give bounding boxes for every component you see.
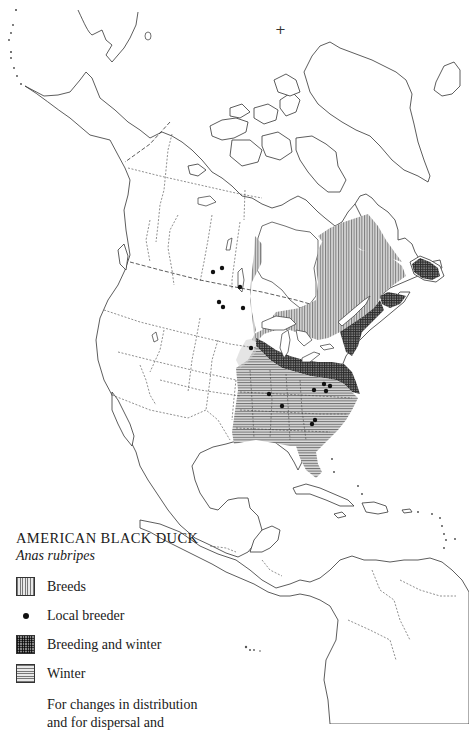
vancouver-island <box>118 244 128 270</box>
hispaniola <box>362 502 388 514</box>
local-breeder-dot <box>322 382 326 386</box>
local-breeder-dot <box>211 270 215 274</box>
local-breeder-dot <box>313 418 317 422</box>
local-breeder-dot <box>280 404 284 408</box>
local-breeder-dot <box>310 422 314 426</box>
scientific-name: Anas rubripes <box>16 547 246 564</box>
legend-label: Winter <box>47 666 85 682</box>
legend: AMERICAN BLACK DUCK Anas rubripes Breeds… <box>16 530 246 732</box>
local-breeder-dot <box>328 384 332 388</box>
local-breeder-dot <box>267 392 271 396</box>
legend-label: Breeding and winter <box>47 637 161 653</box>
legend-item-breeds: Breeds <box>16 572 246 601</box>
local-breeder-dot <box>221 305 225 309</box>
legend-item-local-breeder: Local breeder <box>16 601 246 630</box>
crosshatch-swatch-icon <box>16 635 35 654</box>
legend-item-winter: Winter <box>16 659 246 688</box>
jamaica <box>334 512 346 518</box>
local-breeder-dot <box>220 266 224 270</box>
galapagos <box>245 646 261 652</box>
island <box>145 32 151 40</box>
dot-icon <box>16 606 35 625</box>
legend-item-breeding-and-winter: Breeding and winter <box>16 630 246 659</box>
siberia-coast <box>78 10 138 62</box>
north-pole-marker: + <box>275 22 286 37</box>
legend-label: Breeds <box>47 579 86 595</box>
horizontal-hatch-swatch-icon <box>16 664 35 683</box>
legend-label: Local breeder <box>47 608 124 624</box>
aleutian-islands <box>8 9 22 85</box>
legend-note-line: and for dispersal and <box>47 714 246 732</box>
puerto-rico <box>402 509 412 513</box>
cuba <box>293 484 354 506</box>
local-breeder-dot <box>324 389 328 393</box>
local-breeder-dot <box>312 388 316 392</box>
local-breeder-dot <box>238 285 242 289</box>
iceland <box>434 62 460 96</box>
map-title: AMERICAN BLACK DUCK <box>16 530 246 547</box>
local-breeder-dot <box>241 306 245 310</box>
local-breeder-dot <box>217 300 221 304</box>
local-breeder-dot <box>249 346 253 350</box>
legend-note: For changes in distribution and for disp… <box>47 696 246 732</box>
vertical-hatch-swatch-icon <box>16 577 35 596</box>
legend-note-line: For changes in distribution <box>47 696 246 714</box>
